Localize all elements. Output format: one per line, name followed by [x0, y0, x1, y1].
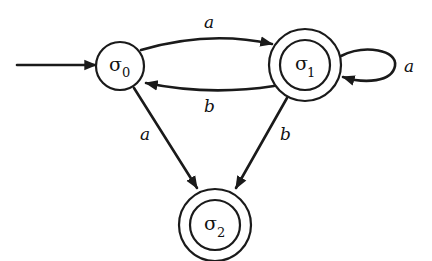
state-s0: σ 0 [96, 42, 144, 90]
state-s0-subscript: 0 [122, 65, 130, 80]
transition-s0-s1-a [141, 38, 272, 50]
transition-label-s0-s2: a [140, 124, 150, 144]
state-s2-symbol: σ [204, 212, 217, 234]
state-s1: σ 1 [269, 29, 341, 101]
transition-label-s1-s0: b [204, 96, 215, 116]
state-s1-subscript: 1 [307, 65, 315, 80]
transition-s1-self-loop-a [341, 50, 395, 81]
transition-label-s0-s1: a [204, 12, 214, 32]
state-s2: σ 2 [179, 189, 251, 261]
transition-s1-s0-b [146, 83, 274, 90]
automaton-diagram: a b a a b σ 0 σ 1 σ 2 [0, 0, 432, 261]
state-s0-symbol: σ [109, 53, 122, 75]
transition-label-s1-self: a [404, 56, 414, 76]
transition-label-s1-s2: b [280, 124, 291, 144]
state-s2-subscript: 2 [217, 225, 225, 240]
